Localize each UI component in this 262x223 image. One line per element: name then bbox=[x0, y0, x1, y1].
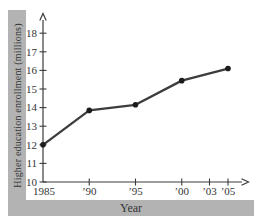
svg-text:15: 15 bbox=[26, 83, 38, 95]
enrollment-line-chart: Higher education enrollment (millions) Y… bbox=[0, 0, 262, 223]
svg-text:16: 16 bbox=[26, 64, 38, 76]
plot-area: 1011121314151617181985’90’95’00’03’05 bbox=[0, 0, 262, 223]
svg-text:1985: 1985 bbox=[33, 185, 56, 197]
svg-text:’05: ’05 bbox=[221, 185, 236, 197]
svg-text:14: 14 bbox=[26, 101, 38, 113]
svg-text:’00: ’00 bbox=[174, 185, 189, 197]
svg-text:18: 18 bbox=[26, 27, 38, 39]
svg-text:’95: ’95 bbox=[128, 185, 143, 197]
svg-text:12: 12 bbox=[26, 139, 37, 151]
svg-text:’03: ’03 bbox=[202, 185, 217, 197]
svg-text:’90: ’90 bbox=[82, 185, 97, 197]
svg-text:13: 13 bbox=[26, 120, 38, 132]
svg-text:11: 11 bbox=[26, 157, 37, 169]
svg-text:17: 17 bbox=[26, 46, 38, 58]
